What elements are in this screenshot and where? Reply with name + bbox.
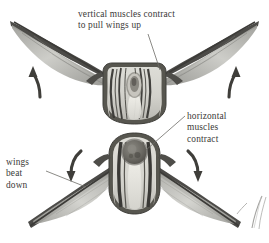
label-vertical-muscles: vertical muscles contract to pull wings … [78, 9, 175, 32]
label-wings-beat-down: wings beat down [6, 157, 29, 191]
downstroke-panel [28, 116, 266, 229]
label-horizontal-muscles: horizontal muscles contract [187, 111, 227, 145]
upstroke-panel [10, 21, 259, 124]
upstroke-arrow-right [229, 66, 241, 97]
downstroke-arrow-left [67, 151, 82, 182]
upstroke-arrow-left [29, 66, 41, 97]
insect-flight-diagram [0, 0, 269, 243]
downstroke-arrow-right [188, 151, 203, 182]
figure-canvas: vertical muscles contract to pull wings … [0, 0, 269, 243]
partial-wing-corner [237, 196, 266, 229]
leader-line-wings [46, 171, 86, 187]
